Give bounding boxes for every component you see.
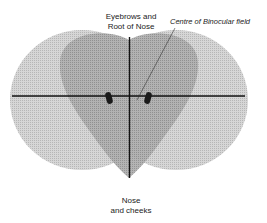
visual-field-diagram: Eyebrows and Root of Nose Centre of Bino… <box>0 0 267 223</box>
visual-field-graphic <box>0 0 267 223</box>
bottom-label-line1: Nose <box>96 196 166 206</box>
bottom-label: Nose and cheeks <box>96 196 166 216</box>
bottom-label-line2: and cheeks <box>96 206 166 216</box>
centre-label: Centre of Binocular field <box>170 17 267 27</box>
top-label-line2: Root of Nose <box>96 22 166 32</box>
top-label-line1: Eyebrows and <box>96 12 166 22</box>
top-label: Eyebrows and Root of Nose <box>96 12 166 32</box>
